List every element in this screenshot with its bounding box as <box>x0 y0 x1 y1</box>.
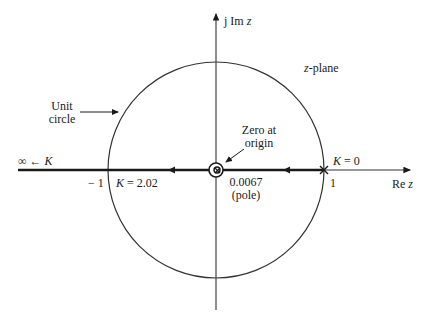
zero-annotation-arrow <box>226 149 244 162</box>
zero-at-origin-label: Zero at origin <box>234 124 284 150</box>
z-plane-label: z-plane <box>304 62 339 75</box>
tick-minus-one-label: − 1 <box>88 177 104 190</box>
root-locus-diagram: j Im z Re z z-plane Unit circle Zero at … <box>0 0 434 323</box>
diagram-canvas <box>0 0 434 323</box>
locus-arrow-icon <box>168 167 175 174</box>
unit-circle-label: Unit circle <box>44 100 80 126</box>
k-break-label: K = 2.02 <box>116 177 158 190</box>
pole-value-label: 0.0067 (pole) <box>224 176 268 202</box>
zero-circle-icon <box>209 163 223 177</box>
locus-arrow-icon <box>283 167 290 174</box>
real-axis-label: Re z <box>392 178 413 191</box>
k-zero-label: K = 0 <box>333 155 360 168</box>
k-infinity-label: ∞ ← K <box>18 155 53 168</box>
tick-one-label: 1 <box>330 177 336 190</box>
imaginary-axis-label: j Im z <box>224 15 251 28</box>
